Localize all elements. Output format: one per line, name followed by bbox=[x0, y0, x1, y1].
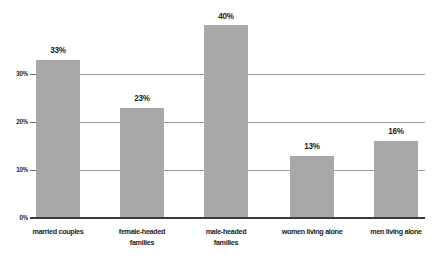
bar-men-living-alone bbox=[374, 141, 418, 217]
category-label-line2: families bbox=[186, 237, 265, 248]
y-tick-10-wrap: 10% bbox=[0, 166, 28, 176]
category-label-women-living-alone: women living alone bbox=[271, 226, 354, 237]
category-label-line1: women living alone bbox=[282, 227, 343, 236]
y-tick-label-30: 30% bbox=[5, 70, 28, 77]
y-tick-20-wrap: 20% bbox=[0, 118, 28, 128]
category-label-line1: female-headed bbox=[119, 227, 165, 236]
plot-area: 30% 20% 10% 0% 33% married couples 23% f… bbox=[0, 0, 442, 264]
y-tick-label-0: 0% bbox=[5, 214, 28, 221]
y-tick-label-20: 20% bbox=[5, 118, 28, 125]
y-tick-label-10: 10% bbox=[5, 166, 28, 173]
x-axis-line bbox=[30, 217, 425, 219]
category-label-line2: families bbox=[102, 237, 181, 248]
y-tick-0-wrap: 0% bbox=[0, 214, 28, 224]
bar-value-label-married-couples: 33% bbox=[38, 45, 78, 55]
y-tick-30-wrap: 30% bbox=[0, 70, 28, 80]
bar-married-couples bbox=[36, 60, 80, 217]
bar-chart: 30% 20% 10% 0% 33% married couples 23% f… bbox=[0, 0, 442, 264]
bar-value-label-male-headed-families: 40% bbox=[206, 11, 246, 21]
category-label-female-headed-families: female-headed families bbox=[102, 226, 181, 248]
bar-value-label-female-headed-families: 23% bbox=[122, 93, 162, 103]
bar-women-living-alone bbox=[290, 156, 334, 217]
category-label-married-couples: married couples bbox=[18, 226, 97, 237]
category-label-line1: married couples bbox=[33, 227, 84, 236]
bar-male-headed-families bbox=[204, 25, 248, 217]
bar-female-headed-families bbox=[120, 108, 164, 217]
category-label-men-living-alone: men living alone bbox=[356, 226, 435, 237]
category-label-line1: male-headed bbox=[206, 227, 247, 236]
bar-value-label-women-living-alone: 13% bbox=[292, 141, 332, 151]
category-label-line1: men living alone bbox=[370, 227, 421, 236]
category-label-male-headed-families: male-headed families bbox=[186, 226, 265, 248]
bar-value-label-men-living-alone: 16% bbox=[376, 126, 416, 136]
